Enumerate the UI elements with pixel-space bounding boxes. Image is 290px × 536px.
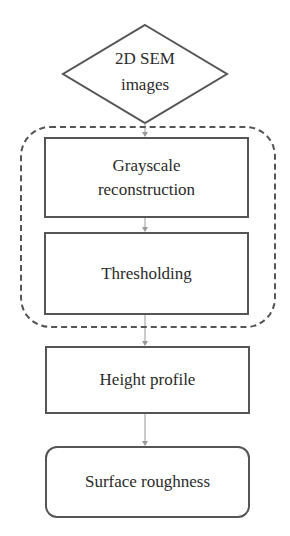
height-profile-label: Height profile [100, 368, 196, 392]
arrow-height-to-roughness [142, 413, 148, 446]
input-label-line2: images [90, 72, 200, 98]
thresholding-node: Thresholding [44, 232, 249, 315]
input-node-label: 2D SEM images [90, 46, 200, 98]
grayscale-label-line1: Grayscale [113, 154, 181, 178]
height-profile-node: Height profile [45, 346, 250, 414]
thresholding-label: Thresholding [101, 262, 192, 286]
grayscale-reconstruction-node: Grayscale reconstruction [44, 137, 249, 218]
surface-roughness-label: Surface roughness [85, 470, 210, 494]
input-label-line1: 2D SEM [90, 46, 200, 72]
surface-roughness-node: Surface roughness [45, 446, 250, 518]
grayscale-label-line2: reconstruction [98, 178, 195, 202]
